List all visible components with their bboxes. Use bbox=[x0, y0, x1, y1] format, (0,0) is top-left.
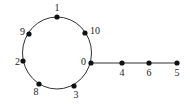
node-label-2: 2 bbox=[15, 56, 20, 67]
node-4 bbox=[119, 60, 124, 65]
node-9 bbox=[26, 31, 31, 36]
node-10 bbox=[82, 30, 87, 35]
nodes bbox=[20, 14, 179, 88]
node-label-9: 9 bbox=[20, 26, 25, 37]
node-label-0: 0 bbox=[81, 56, 86, 67]
node-label-8: 8 bbox=[34, 86, 39, 97]
node-label-1: 1 bbox=[55, 2, 60, 13]
node-2 bbox=[20, 58, 25, 63]
graph-diagram: 11003829465 bbox=[0, 0, 190, 104]
node-label-4: 4 bbox=[120, 67, 125, 78]
node-0 bbox=[88, 60, 93, 65]
node-label-6: 6 bbox=[147, 67, 152, 78]
node-5 bbox=[174, 60, 179, 65]
node-label-3: 3 bbox=[74, 89, 79, 100]
node-6 bbox=[146, 60, 151, 65]
node-label-5: 5 bbox=[175, 67, 180, 78]
node-1 bbox=[54, 14, 59, 19]
cycle-edge bbox=[23, 17, 92, 89]
node-3 bbox=[71, 83, 76, 88]
node-label-10: 10 bbox=[90, 25, 100, 36]
